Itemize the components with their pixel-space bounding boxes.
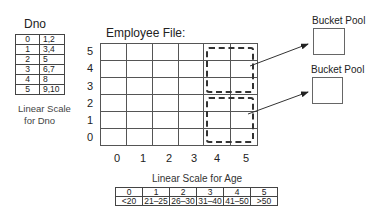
table-row: <20 21–25 26–30 31–40 41–50 >50 — [116, 197, 278, 206]
bucket-pool-label-1: Bucket Pool — [312, 15, 365, 26]
bucket-pool-box-2 — [312, 77, 343, 104]
bucket-pool-box-1 — [313, 28, 345, 55]
age-scale-title: Linear Scale for Age — [152, 173, 242, 184]
bucket-pool-label-2: Bucket Pool — [311, 64, 364, 75]
table-row: 0 1 2 3 4 5 — [116, 188, 278, 197]
arrow-to-bucket-2 — [248, 92, 308, 114]
age-scale-table: 0 1 2 3 4 5 <20 21–25 26–30 31–40 41–50 … — [115, 187, 278, 206]
arrow-to-bucket-1 — [250, 44, 308, 66]
